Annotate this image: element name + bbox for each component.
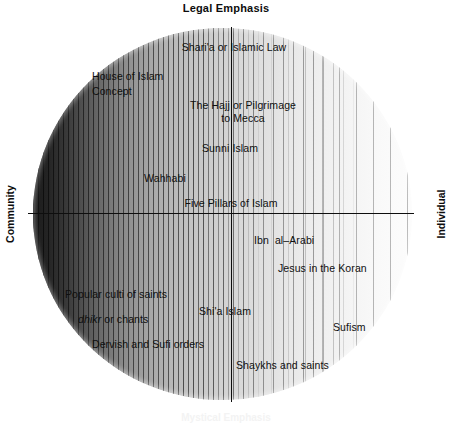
label-dervish-and-sufi-orders: Dervish and Sufi orders bbox=[92, 338, 204, 351]
label-dhikr-italic: dhikr bbox=[78, 313, 101, 325]
label-hajj-line2: to Mecca bbox=[221, 112, 264, 125]
label-house-of-islam-line1: House of Islam bbox=[92, 70, 163, 83]
label-shaykhs-and-saints: Shaykhs and saints bbox=[236, 359, 329, 372]
label-dhikr-rest: or chants bbox=[101, 313, 148, 325]
horizontal-axis-line bbox=[28, 213, 414, 214]
axis-label-individual: Individual bbox=[435, 178, 447, 250]
label-hajj-line1: The Hajj or Pilgrimage bbox=[190, 99, 296, 112]
chart-bottom-caption: Mystical Emphasis bbox=[0, 412, 452, 423]
label-popular-culti-of-saints: Popular culti of saints bbox=[65, 288, 167, 301]
label-wahhabi: Wahhabi bbox=[144, 172, 186, 185]
shaded-disc bbox=[33, 28, 412, 400]
label-sunni-islam: Sunni Islam bbox=[202, 142, 258, 155]
label-dhikr-or-chants: dhikr or chants bbox=[78, 313, 148, 326]
circle-plot-area bbox=[33, 28, 412, 400]
label-ibn-al-arabi: Ibn al–Arabi bbox=[254, 234, 314, 247]
label-house-of-islam-line2: Concept bbox=[92, 85, 132, 98]
chart-title: Legal Emphasis bbox=[0, 2, 452, 14]
label-five-pillars: Five Pillars of Islam bbox=[184, 197, 277, 210]
label-sharia: Shari'a or Islamic Law bbox=[182, 41, 287, 54]
label-sufism: Sufism bbox=[333, 321, 366, 334]
diagram-canvas: Legal Emphasis Community Individual Shar… bbox=[0, 0, 452, 426]
vertical-axis-line bbox=[231, 27, 232, 402]
hatch-lines-sparse bbox=[33, 28, 412, 400]
label-jesus-in-the-koran: Jesus in the Koran bbox=[278, 262, 367, 275]
axis-label-community: Community bbox=[4, 178, 16, 250]
label-shia-islam: Shi'a Islam bbox=[199, 305, 251, 318]
